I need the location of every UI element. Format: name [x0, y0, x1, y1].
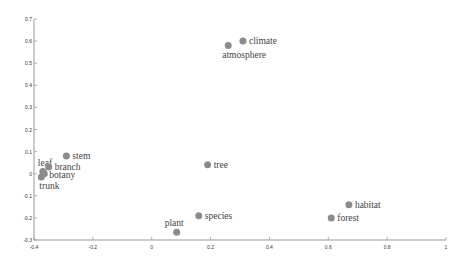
point-label: atmosphere	[222, 50, 266, 60]
point-label: species	[205, 211, 233, 221]
marker-dot	[345, 201, 352, 208]
marker-dot	[328, 214, 335, 221]
x-tick-label: 0.4	[266, 244, 273, 250]
scatter-plot: -0.4-0.200.20.40.60.81-0.3-0.2-0.100.10.…	[0, 0, 471, 260]
y-tick-label: 0.3	[25, 104, 32, 110]
data-points: climateatmospherestemleafbranchbotanytru…	[38, 36, 381, 236]
marker-dot	[239, 38, 246, 45]
point-label: stem	[72, 151, 91, 161]
point-label: trunk	[39, 181, 59, 191]
data-point-species: species	[195, 211, 232, 221]
marker-dot	[63, 153, 70, 160]
point-label: climate	[249, 36, 277, 46]
x-tick-label: 0.2	[207, 244, 214, 250]
x-tick-label: -0.2	[89, 244, 98, 250]
x-tick-label: -0.4	[30, 244, 39, 250]
data-point-climate: climate	[239, 36, 276, 46]
marker-dot	[225, 42, 232, 49]
data-point-botany: botany	[41, 170, 76, 180]
marker-dot	[173, 229, 180, 236]
y-tick-label: 0.1	[25, 149, 32, 155]
y-tick-label: 0.6	[25, 38, 32, 44]
y-tick-label: -0.3	[23, 237, 32, 243]
x-tick-label: 0.8	[384, 244, 391, 250]
data-point-plant: plant	[165, 218, 184, 236]
data-point-forest: forest	[328, 213, 359, 223]
marker-dot	[38, 174, 45, 181]
data-point-tree: tree	[204, 160, 228, 170]
point-label: habitat	[355, 200, 381, 210]
y-tick-label: 0.4	[25, 82, 32, 88]
y-tick-label: -0.2	[23, 215, 32, 221]
data-point-habitat: habitat	[345, 200, 381, 210]
marker-dot	[204, 161, 211, 168]
marker-dot	[195, 212, 202, 219]
x-tick-label: 0.6	[325, 244, 332, 250]
x-tick-label: 0	[150, 244, 153, 250]
point-label: forest	[337, 213, 359, 223]
y-tick-label: -0.1	[23, 193, 32, 199]
y-tick-label: 0	[29, 171, 32, 177]
x-tick-label: 1	[445, 244, 448, 250]
y-tick-label: 0.2	[25, 127, 32, 133]
y-tick-label: 0.5	[25, 60, 32, 66]
point-label: tree	[214, 160, 228, 170]
point-label: botany	[49, 170, 75, 180]
y-tick-label: 0.7	[25, 16, 32, 22]
data-point-stem: stem	[63, 151, 91, 161]
point-label: plant	[165, 218, 184, 228]
